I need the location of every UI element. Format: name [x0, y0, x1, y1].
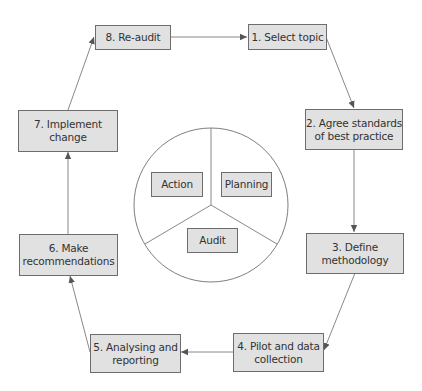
arrow-5-to-6	[70, 276, 90, 352]
arrow-7-to-8	[68, 37, 94, 110]
step-label: 6. Make recommendations	[23, 242, 115, 268]
segment-label: Action	[161, 178, 193, 191]
segment-label: Planning	[225, 178, 269, 191]
step-label: 7. Implement change	[34, 118, 102, 144]
step-label: 5. Analysing and reporting	[93, 341, 177, 367]
step-label: 4. Pilot and data collection	[237, 340, 320, 366]
segment-audit: Audit	[187, 228, 238, 253]
step-3-define-methodology: 3. Define methodology	[306, 233, 404, 274]
step-label: 8. Re-audit	[105, 31, 160, 44]
segment-label: Audit	[199, 234, 226, 247]
arrow-3-to-4	[324, 273, 355, 350]
diagram-connectors	[0, 0, 422, 391]
step-4-pilot-data-collection: 4. Pilot and data collection	[233, 333, 324, 372]
step-label: 2. Agree standards of best practice	[306, 117, 402, 143]
segment-planning: Planning	[221, 172, 272, 197]
arrow-1-to-2	[326, 37, 354, 108]
step-7-implement-change: 7. Implement change	[18, 110, 118, 152]
step-label: 3. Define methodology	[322, 241, 389, 267]
step-8-re-audit: 8. Re-audit	[95, 25, 171, 50]
step-6-make-recommendations: 6. Make recommendations	[19, 234, 118, 276]
step-2-agree-standards: 2. Agree standards of best practice	[305, 109, 403, 150]
step-5-analysing-reporting: 5. Analysing and reporting	[90, 334, 181, 373]
step-label: 1. Select topic	[252, 31, 324, 44]
segment-action: Action	[151, 172, 203, 197]
step-1-select-topic: 1. Select topic	[248, 24, 327, 50]
